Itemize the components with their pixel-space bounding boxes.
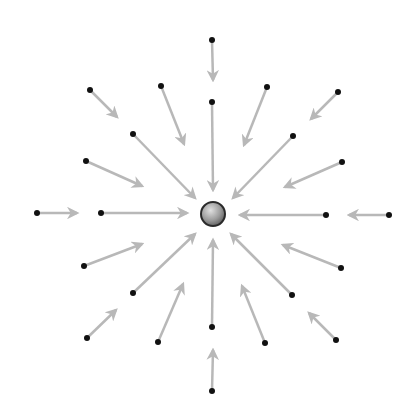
origin-dot — [338, 265, 344, 271]
origin-dot — [290, 133, 296, 139]
point-charge — [201, 202, 225, 226]
origin-dot — [130, 131, 136, 137]
origin-dot — [209, 388, 215, 394]
origin-dot — [289, 292, 295, 298]
origin-dot — [323, 212, 329, 218]
origin-dot — [262, 340, 268, 346]
field-arrow — [212, 40, 213, 80]
origin-dot — [264, 84, 270, 90]
origin-dot — [130, 290, 136, 296]
origin-dot — [98, 210, 104, 216]
origin-dot — [81, 263, 87, 269]
field-arrow — [212, 350, 213, 391]
origin-dot — [83, 158, 89, 164]
origin-dot — [386, 212, 392, 218]
origin-dot — [335, 89, 341, 95]
origin-dot — [84, 335, 90, 341]
origin-dot — [209, 99, 215, 105]
origin-dot — [87, 87, 93, 93]
origin-dot — [155, 339, 161, 345]
origin-dot — [333, 337, 339, 343]
origin-dot — [158, 83, 164, 89]
origin-dot — [339, 159, 345, 165]
field-diagram — [0, 0, 414, 417]
field-arrow — [212, 240, 213, 327]
origin-dot — [209, 37, 215, 43]
field-arrow — [212, 102, 213, 190]
origin-dot — [34, 210, 40, 216]
origin-dot — [209, 324, 215, 330]
